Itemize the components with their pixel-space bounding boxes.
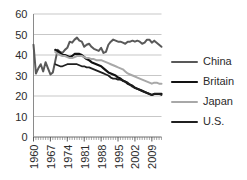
- legend-label-japan: Japan: [203, 95, 233, 107]
- chart-legend: ChinaBritainJapanU.S.: [172, 55, 234, 127]
- x-axis-tick-label: 1981: [79, 145, 91, 169]
- chart-canvas: 0102030405060 19601967197419811988199520…: [0, 0, 247, 180]
- x-axis-tick-label: 1974: [62, 145, 74, 169]
- y-axis-tick-label: 20: [15, 90, 27, 102]
- series-line-us: [55, 64, 161, 95]
- y-axis-tick-label: 10: [15, 111, 27, 123]
- y-axis-tick-label: 30: [15, 70, 27, 82]
- y-axis-tick-label: 40: [15, 49, 27, 61]
- plot-series-group: [34, 38, 162, 95]
- legend-label-us: U.S.: [203, 115, 224, 127]
- x-axis-tick-label: 2009: [146, 145, 158, 169]
- x-axis-tick-label: 1960: [28, 145, 40, 169]
- x-axis-tick-label: 1988: [96, 145, 108, 169]
- x-axis-tick-label: 1967: [45, 145, 57, 169]
- x-axis: 19601967197419811988199520022009: [28, 137, 162, 169]
- legend-label-britain: Britain: [203, 75, 234, 87]
- legend-label-china: China: [203, 55, 233, 67]
- x-axis-tick-label: 1995: [113, 145, 125, 169]
- line-chart: 0102030405060 19601967197419811988199520…: [0, 0, 247, 180]
- series-line-china: [34, 38, 162, 75]
- series-line-britain: [55, 50, 161, 95]
- y-axis-tick-label: 0: [21, 131, 27, 143]
- y-axis-tick-label: 50: [15, 29, 27, 41]
- gridlines-group: [34, 14, 162, 137]
- x-axis-tick-label: 2002: [129, 145, 141, 169]
- y-axis-tick-label: 60: [15, 8, 27, 20]
- y-axis: 0102030405060: [15, 8, 33, 143]
